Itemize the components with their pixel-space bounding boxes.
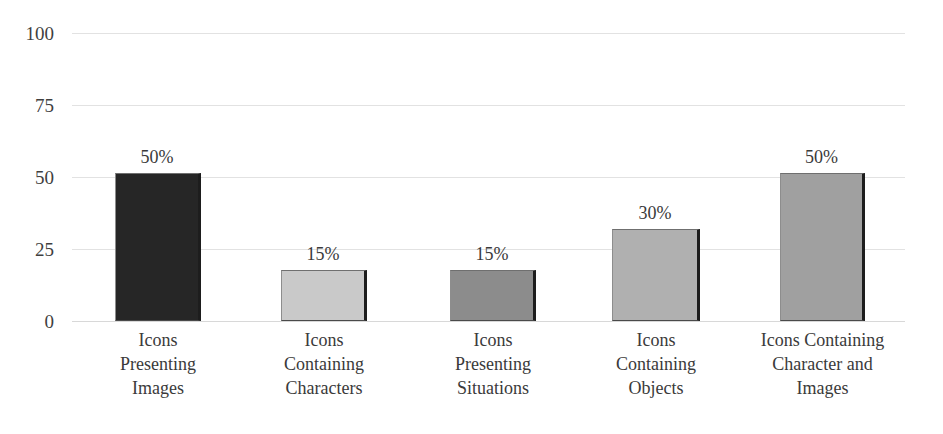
x-label-line: Situations (423, 376, 563, 400)
x-label-line: Icons (254, 328, 394, 352)
x-label-line: Containing (586, 352, 726, 376)
x-label-line: Presenting (423, 352, 563, 376)
y-axis-tick-50: 50 (0, 168, 54, 187)
bar-group-3: 15% (450, 33, 536, 321)
bar-icons-containing-character-and-images[interactable]: 50% (780, 173, 865, 321)
x-label-line: Objects (586, 376, 726, 400)
bar-value-label-2: 15% (260, 245, 386, 263)
x-label-icons-containing-objects: Icons Containing Objects (586, 328, 726, 400)
bar-group-1: 50% (115, 33, 201, 321)
bar-icons-containing-characters[interactable]: 15% (281, 270, 367, 321)
bar-value-label-4: 30% (591, 204, 719, 222)
bar-value-label-3: 15% (429, 245, 555, 263)
x-label-line: Icons (88, 328, 228, 352)
bar-value-label-5: 50% (759, 148, 884, 166)
x-label-line: Character and (740, 352, 905, 376)
x-label-icons-presenting-situations: Icons Presenting Situations (423, 328, 563, 400)
bar-group-4: 30% (612, 33, 700, 321)
y-axis-tick-0: 0 (0, 312, 54, 331)
plot-area: 50% 15% 15% 30% 50% (72, 33, 905, 321)
x-label-line: Presenting (88, 352, 228, 376)
x-label-line: Icons Containing (740, 328, 905, 352)
bar-chart: 100 75 50 25 0 50% 15% (0, 0, 943, 434)
bars-layer: 50% 15% 15% 30% 50% (72, 33, 905, 321)
x-label-icons-presenting-images: Icons Presenting Images (88, 328, 228, 400)
x-label-icons-containing-character-and-images: Icons Containing Character and Images (740, 328, 905, 400)
bar-value-label-1: 50% (94, 148, 220, 166)
bar-group-5: 50% (780, 33, 865, 321)
gridline-baseline-0 (72, 321, 905, 322)
y-axis-tick-100: 100 (0, 24, 54, 43)
x-label-line: Images (740, 376, 905, 400)
y-axis-tick-75: 75 (0, 96, 54, 115)
bar-icons-containing-objects[interactable]: 30% (612, 229, 700, 321)
x-label-line: Containing (254, 352, 394, 376)
bar-icons-presenting-images[interactable]: 50% (115, 173, 201, 321)
x-label-line: Icons (423, 328, 563, 352)
x-label-line: Characters (254, 376, 394, 400)
bar-icons-presenting-situations[interactable]: 15% (450, 270, 536, 321)
y-axis-tick-25: 25 (0, 240, 54, 259)
x-label-line: Images (88, 376, 228, 400)
x-label-icons-containing-characters: Icons Containing Characters (254, 328, 394, 400)
bar-group-2: 15% (281, 33, 367, 321)
x-label-line: Icons (586, 328, 726, 352)
x-axis-category-labels: Icons Presenting Images Icons Containing… (72, 328, 905, 428)
